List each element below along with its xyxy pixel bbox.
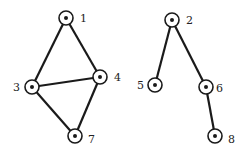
node-center-dot — [30, 85, 34, 89]
node-center-dot — [73, 134, 77, 138]
node-4: 4 — [93, 70, 121, 84]
node-center-dot — [64, 16, 68, 20]
edge-2-6 — [172, 20, 206, 87]
node-5: 5 — [137, 78, 162, 92]
edges — [32, 18, 215, 136]
node-label: 5 — [137, 79, 144, 92]
node-label: 6 — [216, 82, 223, 95]
node-6: 6 — [199, 80, 223, 95]
node-label: 8 — [228, 133, 235, 146]
node-label: 3 — [13, 81, 20, 94]
edge-1-4 — [66, 18, 100, 77]
node-center-dot — [153, 83, 157, 87]
edge-4-7 — [75, 77, 100, 136]
node-label: 7 — [88, 133, 95, 146]
edge-3-4 — [32, 77, 100, 87]
node-2: 2 — [165, 13, 193, 27]
edge-2-5 — [155, 20, 172, 85]
node-label: 4 — [114, 71, 121, 84]
node-3: 3 — [13, 80, 39, 94]
node-label: 1 — [80, 12, 87, 25]
node-7: 7 — [68, 129, 95, 146]
node-8: 8 — [208, 129, 235, 146]
node-center-dot — [98, 75, 102, 79]
edge-3-7 — [32, 87, 75, 136]
node-center-dot — [213, 134, 217, 138]
edge-1-3 — [32, 18, 66, 87]
graph-diagram: 14372568 — [0, 0, 245, 152]
node-label: 2 — [186, 14, 193, 27]
node-center-dot — [204, 85, 208, 89]
node-1: 1 — [59, 11, 87, 25]
node-center-dot — [170, 18, 174, 22]
